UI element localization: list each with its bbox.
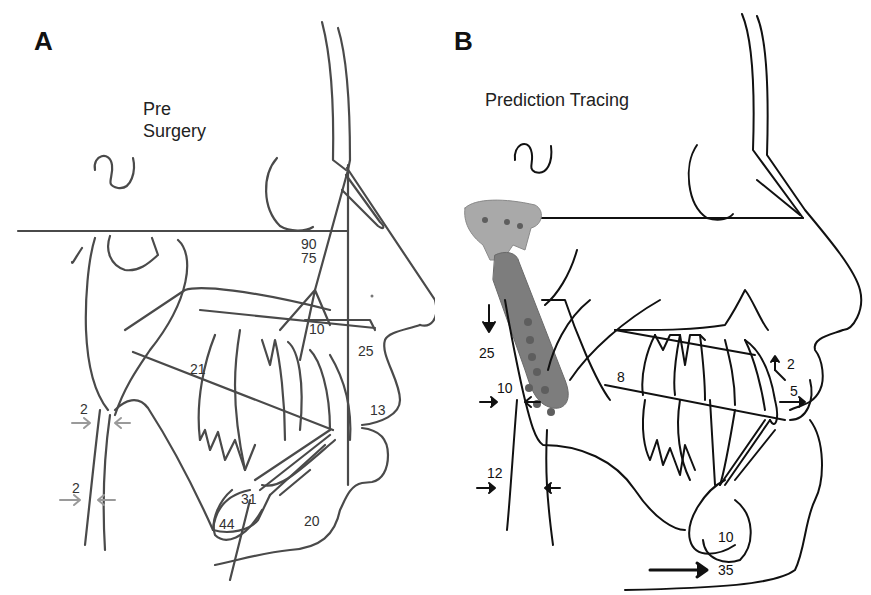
measurement-b-35: 35 [718, 563, 734, 577]
distraction-device-implant [465, 200, 569, 416]
measurement-b-5: 5 [790, 384, 798, 398]
measurement-a-21: 21 [190, 362, 206, 376]
panel-prediction-tracing: B Prediction Tracing [435, 0, 871, 595]
measurement-a-20: 20 [304, 514, 320, 528]
measurement-b-10-left: 10 [497, 381, 513, 395]
ear-curve [95, 156, 134, 188]
prediction-tracing [435, 0, 871, 595]
pre-surgery-tracing [0, 0, 435, 595]
measurement-a-13: 13 [370, 403, 386, 417]
measurement-b-25: 25 [479, 346, 495, 360]
measurement-a-90: 90 [301, 237, 317, 251]
panel-pre-surgery: A Pre Surgery [0, 0, 435, 595]
measurement-b-10-chin: 10 [718, 530, 734, 544]
measurement-b-8: 8 [617, 370, 625, 384]
measurement-a-10: 10 [309, 322, 325, 336]
measurement-a-2-lower: 2 [72, 481, 80, 495]
measurement-b-12: 12 [487, 466, 503, 480]
measurement-a-2-upper: 2 [80, 402, 88, 416]
measurement-a-44: 44 [219, 517, 235, 531]
measurement-a-25: 25 [358, 344, 374, 358]
measurement-a-75: 75 [301, 251, 317, 265]
measurement-a-31: 31 [241, 492, 257, 506]
measurement-b-2: 2 [787, 357, 795, 371]
